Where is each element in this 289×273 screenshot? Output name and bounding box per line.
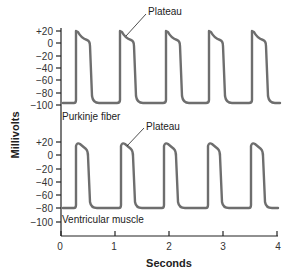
upper-y-tick-label: −20: [36, 51, 53, 62]
upper-y-ticks: +20 0 −20 −40 −60 −80 −100: [30, 26, 61, 111]
y-axis-title: Millivolts: [9, 111, 21, 158]
lower-y-tick-label: −60: [36, 190, 53, 201]
upper-y-tick-label: −40: [36, 63, 53, 74]
upper-y-tick-label: −80: [36, 88, 53, 99]
lower-y-tick-label: 0: [47, 150, 53, 161]
upper-plateau-label: Plateau: [148, 6, 182, 17]
x-tick-label: 1: [111, 241, 117, 252]
x-ticks: 0 1 2 3 4: [57, 231, 281, 252]
x-tick-label: 4: [275, 241, 281, 252]
lower-y-tick-label: +20: [36, 137, 53, 148]
upper-y-tick-label: −60: [36, 75, 53, 86]
upper-y-tick-label: 0: [47, 38, 53, 49]
x-tick-label: 0: [57, 241, 63, 252]
purkinje-fiber-label: Purkinje fiber: [62, 111, 121, 122]
lower-y-tick-label: −80: [36, 203, 53, 214]
lower-y-ticks: +20 0 −20 −40 −60 −80 −100: [30, 137, 61, 228]
x-axis-title: Seconds: [146, 257, 192, 269]
x-tick-label: 2: [166, 241, 172, 252]
lower-y-tick-label: −100: [30, 217, 53, 228]
lower-y-tick-label: −20: [36, 164, 53, 175]
lower-y-tick-label: −40: [36, 177, 53, 188]
action-potential-chart: +20 0 −20 −40 −60 −80 −100 +20 0 −20 −40…: [0, 0, 289, 273]
purkinje-fiber-trace: [63, 31, 280, 103]
ventricular-muscle-label: Ventricular muscle: [62, 214, 144, 225]
x-tick-label: 3: [220, 241, 226, 252]
upper-y-tick-label: +20: [36, 26, 53, 37]
upper-y-tick-label: −100: [30, 100, 53, 111]
upper-plateau-leader: [126, 14, 146, 36]
lower-plateau-leader: [127, 128, 144, 146]
lower-plateau-label: Plateau: [146, 121, 180, 132]
ventricular-muscle-trace: [63, 143, 278, 208]
